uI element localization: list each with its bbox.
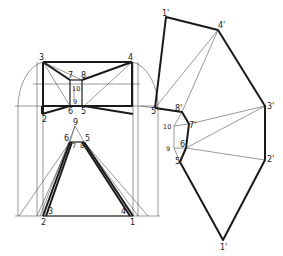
elev-label-8: 8 xyxy=(80,142,84,150)
plan-label-8: 8 xyxy=(81,71,86,80)
dev-label-10: 10 xyxy=(163,123,171,131)
pattern-outline xyxy=(155,17,265,240)
development-pattern: 1' 4' 3' 2' 1' 5' 8' 7' 10 9 6' 5' xyxy=(151,9,274,252)
plan-label-9: 9 xyxy=(73,98,77,106)
elev-label-9: 9 xyxy=(73,118,78,127)
elev-label-6: 6 xyxy=(64,134,69,143)
dev-label-2: 2' xyxy=(267,155,274,164)
elev-label-5: 5 xyxy=(85,134,90,143)
elev-label-4: 4 xyxy=(121,207,126,216)
dev-label-4: 4' xyxy=(218,21,225,30)
elev-label-3: 3 xyxy=(48,207,53,216)
right-arc xyxy=(132,62,158,216)
plan-label-7: 7 xyxy=(68,71,73,80)
plan-label-2: 2 xyxy=(42,115,47,124)
dev-label-1-top: 1' xyxy=(162,9,169,18)
plan-label-5: 5 xyxy=(81,107,86,116)
dev-label-5-top: 5' xyxy=(151,107,158,116)
elev-label-1: 1 xyxy=(130,218,135,227)
dev-label-1-bottom: 1' xyxy=(220,243,227,252)
left-arc xyxy=(18,62,43,216)
plan-label-6: 6 xyxy=(68,107,73,116)
plan-label-3: 3 xyxy=(39,53,44,62)
dev-label-3: 3' xyxy=(267,102,274,111)
elev-label-7: 7 xyxy=(72,142,76,150)
transition-piece-drawing: 3 4 7 8 10 9 2 6 5 9 6 5 7 8 3 4 2 1 xyxy=(0,0,283,256)
dev-label-5-bottom: 5' xyxy=(175,157,182,166)
dev-label-8: 8' xyxy=(175,104,182,113)
elev-label-2: 2 xyxy=(41,218,46,227)
dev-label-7: 7' xyxy=(189,121,196,130)
plan-label-10: 10 xyxy=(72,85,80,93)
dev-label-6: 6' xyxy=(180,140,187,149)
dev-label-9: 9 xyxy=(166,145,170,153)
plan-label-4: 4 xyxy=(128,53,133,62)
